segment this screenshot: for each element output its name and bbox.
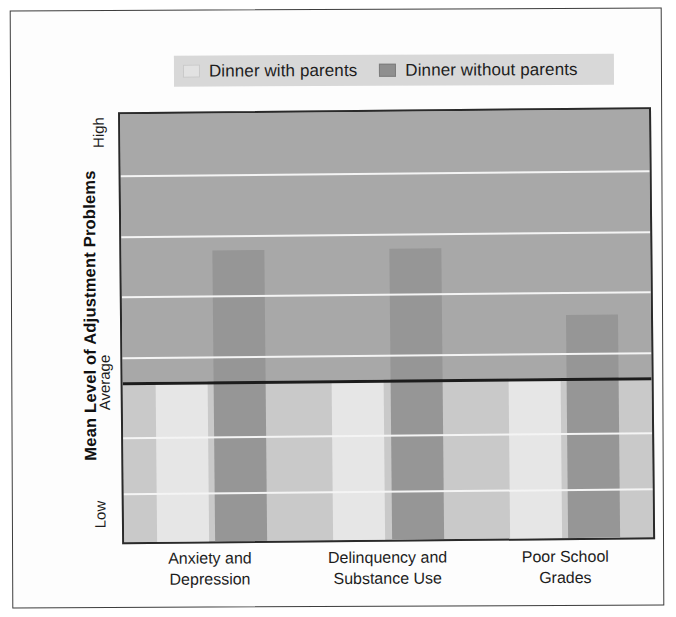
x-label-line-1: Poor School — [476, 546, 654, 568]
legend-label-dinner-without-parents: Dinner without parents — [405, 59, 577, 80]
x-label-poor-school-grades: Poor School Grades — [476, 546, 654, 603]
x-label-line-2: Substance Use — [299, 567, 477, 589]
figure-frame: Dinner with parents Dinner without paren… — [10, 8, 665, 609]
legend-swatch-dark-icon — [379, 64, 396, 77]
x-axis-category-labels: Anxiety and Depression Delinquency and S… — [121, 546, 654, 604]
legend-item-dinner-with-parents: Dinner with parents — [183, 60, 357, 81]
x-label-delinquency-and-substance-use: Delinquency and Substance Use — [299, 546, 477, 603]
legend-item-dinner-without-parents: Dinner without parents — [379, 59, 577, 80]
chart-legend: Dinner with parents Dinner without paren… — [174, 54, 614, 87]
legend-swatch-light-icon — [183, 65, 200, 78]
x-label-anxiety-and-depression: Anxiety and Depression — [121, 547, 299, 604]
x-label-line-1: Anxiety and — [121, 547, 299, 569]
y-tick-label-low: Low — [91, 479, 108, 549]
bar-dinner-with-parents — [332, 380, 386, 540]
bar-dinner-without-parents — [213, 250, 268, 542]
bar-dinner-without-parents — [566, 315, 620, 538]
x-label-line-2: Depression — [121, 568, 299, 590]
bar-dinner-without-parents — [389, 248, 444, 540]
y-tick-label-high: High — [90, 98, 107, 168]
legend-label-dinner-with-parents: Dinner with parents — [209, 60, 357, 81]
plot-area — [118, 107, 655, 544]
bar-dinner-with-parents — [508, 378, 562, 538]
x-label-line-2: Grades — [476, 567, 654, 589]
y-tick-label-average: Average — [96, 332, 113, 432]
x-label-line-1: Delinquency and — [299, 546, 477, 568]
bar-dinner-with-parents — [156, 382, 210, 542]
